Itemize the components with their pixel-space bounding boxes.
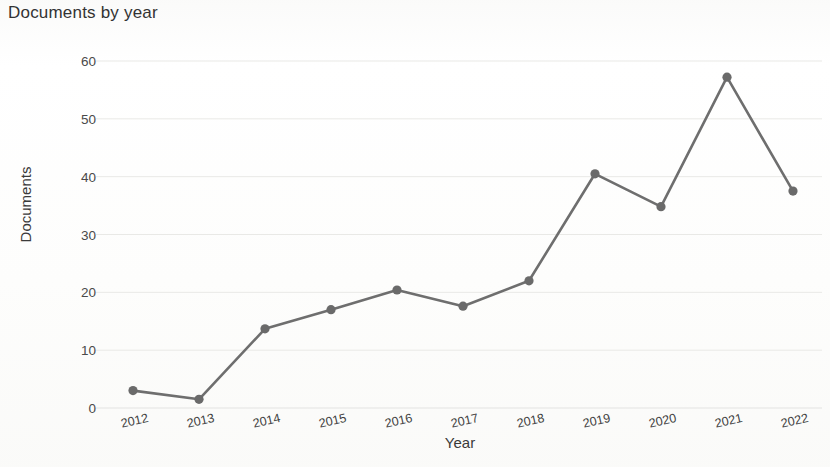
documents-by-year-line-chart: Documents by year 0102030405060 20122013…	[0, 0, 830, 467]
x-tick-label-2017: 2017	[449, 411, 479, 431]
x-tick-label-2013: 2013	[185, 411, 215, 431]
x-tick-label-2019: 2019	[581, 411, 611, 431]
x-tick-label-2014: 2014	[251, 411, 281, 431]
x-axis-title: Year	[400, 434, 520, 451]
y-axis-title: Documents	[17, 145, 34, 265]
x-tick-label-2015: 2015	[317, 411, 347, 431]
x-tick-label-2022: 2022	[779, 411, 809, 431]
x-tick-label-2021: 2021	[713, 411, 743, 431]
x-tick-label-2012: 2012	[119, 411, 149, 431]
x-tick-label-2016: 2016	[383, 411, 413, 431]
x-tick-label-2018: 2018	[515, 411, 545, 431]
x-tick-label-2020: 2020	[647, 411, 677, 431]
x-axis-tick-labels: 2012201320142015201620172018201920202021…	[0, 0, 830, 467]
